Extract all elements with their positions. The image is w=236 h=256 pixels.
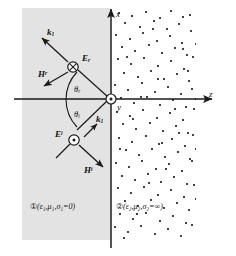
H-incident-symbol: H <box>84 165 91 175</box>
H-reflected-arrow <box>44 72 68 86</box>
label-region1: ①(ε₁,μ₁,σ₁=0) <box>30 203 75 211</box>
label-E-reflected: Er <box>82 54 90 64</box>
axis-label-z: z <box>209 90 213 99</box>
H-reflected-symbol: H <box>38 69 45 79</box>
reflected-ray-segment <box>78 70 108 97</box>
label-k-reflected: k1 <box>47 28 54 38</box>
axis-label-x: x <box>116 10 120 19</box>
figure-canvas: x z y k1 Er Hr θr θi k1 Ei Hi ①(ε₁,μ₁,σ₁… <box>0 0 236 256</box>
region1-params: (ε₁,μ₁,σ₁=0) <box>37 202 75 211</box>
label-region2: ②(ε₂,μ₂,σ₂=∞) <box>116 203 163 211</box>
E-incident-out-of-page-symbol <box>69 135 79 145</box>
k-incident-arrow <box>84 124 97 137</box>
label-H-incident: Hi <box>84 166 93 175</box>
label-H-reflected: Hr <box>38 70 47 79</box>
k-reflected-subscript: 1 <box>52 31 55 37</box>
H-incident-arrow <box>79 145 103 167</box>
origin-y-out-of-page-symbol <box>106 94 116 104</box>
theta-r-subscript: r <box>78 88 80 94</box>
k-reflected-arrow <box>42 38 68 62</box>
region2-params: (ε₂,μ₂,σ₂=∞) <box>123 202 163 211</box>
H-reflected-superscript: r <box>45 70 47 76</box>
label-theta-r: θr <box>74 85 80 94</box>
E-incident-superscript: i <box>61 130 63 136</box>
region2-marker: ② <box>116 202 123 211</box>
incident-ray-tail <box>56 144 70 158</box>
axis-label-y: y <box>117 103 121 112</box>
region1-marker: ① <box>30 202 37 211</box>
theta-i-subscript: i <box>78 113 79 119</box>
E-reflected-subscript: r <box>88 57 90 63</box>
label-k-incident: k1 <box>96 115 103 125</box>
E-reflected-into-page-symbol <box>68 62 78 72</box>
vector-overlay <box>0 0 236 256</box>
label-theta-i: θi <box>74 110 80 119</box>
label-E-incident: Ei <box>55 130 63 139</box>
k-incident-subscript: 1 <box>101 118 104 124</box>
H-incident-superscript: i <box>91 166 93 172</box>
